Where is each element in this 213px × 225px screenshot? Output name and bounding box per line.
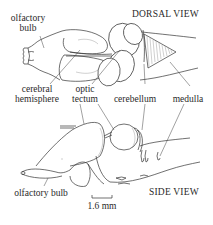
label-medulla: medulla (168, 94, 208, 104)
label-olfactory-bulb-side: olfactory bulb (8, 188, 74, 198)
scale-bar-line (92, 195, 112, 198)
side-olfactory-bulb-shape (21, 169, 70, 178)
side-cerebellum-shape (134, 128, 190, 152)
label-cerebellum: cerebellum (110, 94, 160, 104)
side-view-title: SIDE VIEW (149, 187, 199, 197)
label-optic-tectum: optic tectum (70, 84, 100, 104)
fish-brain-diagram: DORSAL VIEW olfactory bulb cerebral hemi… (0, 0, 213, 225)
scale-bar-label: 1.6 mm (86, 201, 118, 211)
label-optic-tectum-line1: optic (70, 84, 100, 94)
label-olfactory-bulb-line2: bulb (8, 23, 48, 33)
label-cerebral-hemisphere-line1: cerebral (12, 84, 62, 94)
label-cerebral-hemisphere-line2: hemisphere (12, 94, 62, 104)
side-cerebral-hemisphere-shape (36, 122, 105, 166)
side-medulla-shape (116, 150, 160, 184)
side-optic-tectum-shape (104, 124, 138, 150)
label-optic-tectum-line2: tectum (70, 94, 100, 104)
dorsal-view-title: DORSAL VIEW (132, 9, 199, 19)
label-olfactory-bulb-line1: olfactory (8, 13, 48, 23)
label-cerebral-hemisphere: cerebral hemisphere (12, 84, 62, 104)
label-olfactory-bulb-dorsal: olfactory bulb (8, 13, 48, 33)
side-lower-brain-shape (70, 156, 200, 187)
